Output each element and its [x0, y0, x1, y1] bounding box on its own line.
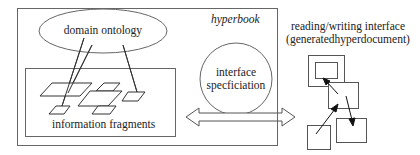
reading-interface-label-line1: reading/writing interface	[280, 20, 416, 33]
information-fragments-label: information fragments	[52, 118, 150, 131]
domain-ontology-label: domain ontology	[62, 24, 144, 37]
interface-specification-label-line2: specficiation	[200, 79, 272, 92]
reading-interface-label-line2: (generatedhyperdocument)	[280, 33, 416, 46]
hyperbook-title: hyperbook	[211, 13, 260, 26]
information-fragment-shapes	[40, 83, 145, 114]
generated-hyperdocument-pages	[308, 56, 367, 150]
interface-specification-label-line1: interface	[200, 66, 272, 79]
